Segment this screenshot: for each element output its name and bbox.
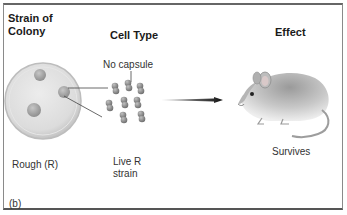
right-arrow-icon [161,97,223,103]
cell-value-line2: strain [113,168,141,180]
cell-value-line1: Live R [113,156,141,168]
strain-value: Rough (R) [12,159,58,171]
panel-label: (b) [9,198,21,210]
effect-value: Survives [272,146,310,158]
mouse-icon [238,72,329,137]
bacteria-icon [106,80,146,124]
diagram-graphics [0,0,347,215]
cell-value: Live R strain [113,156,141,180]
petri-dish-icon [5,63,81,139]
